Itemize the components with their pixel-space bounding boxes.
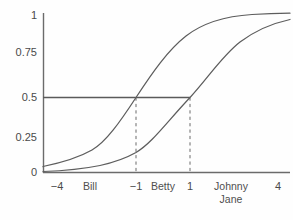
x-tick-label-minus4: −4 bbox=[51, 180, 64, 192]
y-tick-label-0.25: 0.25 bbox=[16, 131, 37, 143]
person-label-jane: Jane bbox=[220, 193, 243, 205]
y-tick-label-0: 0 bbox=[31, 166, 37, 178]
person-label-betty: Betty bbox=[151, 180, 176, 192]
person-label-bill: Bill bbox=[83, 180, 97, 192]
x-tick-label-minus1: −1 bbox=[130, 180, 143, 192]
person-label-johnny: Johnny bbox=[214, 180, 249, 192]
person-annotations: Bill Betty Johnny Jane bbox=[83, 180, 249, 205]
chart-figure: 1 0.75 0.5 0.25 0 −4 −1 1 4 Bill Betty J… bbox=[0, 0, 293, 220]
y-tick-label-0.75: 0.75 bbox=[16, 46, 37, 58]
curve-right bbox=[43, 20, 290, 172]
y-tick-label-0.5: 0.5 bbox=[22, 91, 37, 103]
chart-svg: 1 0.75 0.5 0.25 0 −4 −1 1 4 Bill Betty J… bbox=[0, 0, 293, 220]
x-tick-label-plus4: 4 bbox=[275, 180, 281, 192]
axes-group bbox=[43, 13, 290, 173]
y-tick-labels: 1 0.75 0.5 0.25 0 bbox=[16, 9, 37, 178]
curve-left bbox=[43, 13, 290, 166]
x-tick-label-plus1: 1 bbox=[187, 180, 193, 192]
y-tick-label-1: 1 bbox=[31, 9, 37, 21]
